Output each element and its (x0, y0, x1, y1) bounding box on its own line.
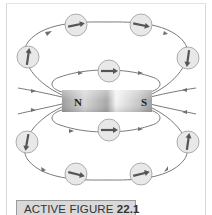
compass-upper-right (177, 47, 199, 69)
compass-lower-left (16, 131, 38, 153)
north-pole-label: N (74, 96, 82, 108)
compass-inner-bottom (98, 119, 120, 141)
figure-label-prefix: ACTIVE FIGURE (24, 203, 117, 215)
bar-magnet: N S (62, 90, 152, 112)
compass-lower-right (177, 131, 199, 153)
compass-top-left (65, 14, 87, 36)
compass-bottom-left (65, 163, 87, 185)
compass-bottom-right (130, 163, 152, 185)
magnetic-field-diagram: N S (0, 0, 212, 215)
compass-upper-left (17, 46, 39, 68)
compass-inner-top (98, 60, 120, 82)
south-pole-label: S (141, 96, 147, 108)
figure-label-number: 22.1 (117, 203, 140, 215)
compass-top-right (130, 14, 152, 36)
figure-label: ACTIVE FIGURE 22.1 (16, 200, 136, 215)
